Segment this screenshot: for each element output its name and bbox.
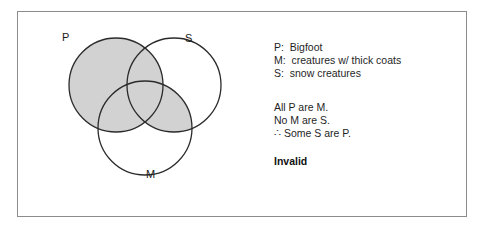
validity-verdict: Invalid: [274, 156, 307, 167]
venn-label-m: M: [146, 169, 155, 180]
premise-major: All P are M.: [274, 102, 328, 113]
venn-label-p: P: [62, 32, 69, 43]
figure-frame: P S M P: Bigfoot M: creatures w/ thick c…: [17, 11, 467, 217]
premise-minor: No M are S.: [274, 115, 330, 126]
figure-page: P S M P: Bigfoot M: creatures w/ thick c…: [0, 0, 483, 232]
text-panel: P: Bigfoot M: creatures w/ thick coats S…: [274, 12, 468, 218]
conclusion: ∴ Some S are P.: [274, 128, 351, 139]
venn-label-s: S: [185, 33, 192, 44]
venn-diagram: P S M: [18, 12, 258, 218]
venn-svg: [18, 12, 258, 218]
legend-line-m: M: creatures w/ thick coats: [274, 55, 401, 66]
legend-line-p: P: Bigfoot: [274, 42, 322, 53]
legend-line-s: S: snow creatures: [274, 68, 361, 79]
